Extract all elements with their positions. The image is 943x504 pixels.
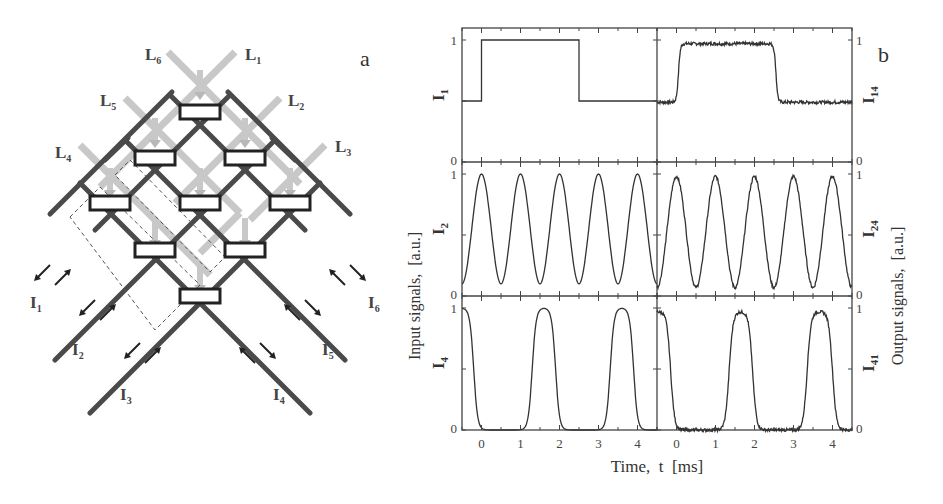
coupler-box bbox=[180, 196, 220, 210]
port-label-i2: I2 bbox=[72, 340, 84, 361]
x-tick-label: 3 bbox=[595, 436, 602, 451]
signal-plots: 1010101010100123401234 I1I14I2I24I4I41 T… bbox=[380, 0, 943, 504]
y-tick-label-left: 0 bbox=[451, 287, 458, 302]
x-axis-label: Time, t [ms] bbox=[611, 457, 703, 476]
x-tick-label: 0 bbox=[478, 436, 485, 451]
panel-y-labels: I1I14I2I24I4I41 bbox=[429, 86, 880, 372]
x-tick-label: 3 bbox=[790, 436, 797, 451]
signal-curve-i1 bbox=[462, 40, 657, 101]
panel-label-i4: I4 bbox=[429, 356, 450, 369]
port-label-i3: I3 bbox=[120, 385, 132, 406]
x-tick-label: 4 bbox=[634, 436, 641, 451]
x-tick-label: 1 bbox=[712, 436, 719, 451]
plot-frames bbox=[462, 28, 852, 430]
signal-curve-i14 bbox=[657, 42, 852, 103]
y-axis-label-left: Input signals, [a.u.] bbox=[406, 232, 424, 360]
light-label-l2: L2 bbox=[288, 91, 304, 112]
coupler-box bbox=[225, 243, 265, 257]
port-label-i6: I6 bbox=[368, 293, 380, 314]
light-label-l4: L4 bbox=[55, 143, 71, 164]
coupler-box bbox=[270, 196, 310, 210]
light-label-l3: L3 bbox=[335, 137, 351, 158]
y-tick-label-right: 0 bbox=[856, 153, 863, 168]
signal-curve-i4 bbox=[462, 308, 657, 430]
x-tick-label: 2 bbox=[556, 436, 563, 451]
y-tick-label-right: 1 bbox=[856, 33, 863, 48]
y-tick-label-right: 0 bbox=[856, 421, 863, 436]
y-tick-label-left: 0 bbox=[451, 421, 458, 436]
y-tick-label-right: 0 bbox=[856, 287, 863, 302]
signal-curve-i24 bbox=[657, 176, 852, 289]
panel-a-label: a bbox=[360, 46, 370, 71]
panel-label-i14: I14 bbox=[859, 86, 880, 104]
coupler-box bbox=[180, 289, 220, 303]
port-label-i5: I5 bbox=[322, 340, 334, 361]
x-tick-label: 2 bbox=[751, 436, 758, 451]
light-arrow-head bbox=[149, 140, 161, 148]
y-tick-label-left: 1 bbox=[451, 167, 458, 182]
light-label-l1: L1 bbox=[245, 45, 261, 66]
y-tick-label-left: 1 bbox=[451, 33, 458, 48]
y-tick-label-right: 1 bbox=[856, 301, 863, 316]
port-label-i1: I1 bbox=[30, 293, 42, 314]
y-axis-label-right: Output signals, [a.u.] bbox=[889, 227, 907, 366]
light-label-l6: L6 bbox=[145, 45, 161, 66]
panel-label-i41: I41 bbox=[859, 354, 880, 372]
coupler-box bbox=[225, 151, 265, 165]
y-tick-label-left: 0 bbox=[451, 153, 458, 168]
y-tick-label-left: 1 bbox=[451, 301, 458, 316]
waveguide-network-diagram: L1L2L3L4L5L6I1I2I3I4I5I6 a bbox=[0, 0, 380, 504]
y-tick-label-right: 1 bbox=[856, 167, 863, 182]
signal-curve-i41 bbox=[657, 311, 852, 432]
x-tick-label: 0 bbox=[673, 436, 680, 451]
light-label-l5: L5 bbox=[100, 91, 116, 112]
panel-label-i2: I2 bbox=[429, 222, 450, 235]
panel-label-i1: I1 bbox=[429, 89, 450, 101]
coupler-box bbox=[135, 151, 175, 165]
x-tick-label: 4 bbox=[829, 436, 836, 451]
panel-label-i24: I24 bbox=[859, 220, 880, 238]
x-tick-label: 1 bbox=[517, 436, 524, 451]
light-guides bbox=[80, 52, 325, 293]
diagram-labels: L1L2L3L4L5L6I1I2I3I4I5I6 bbox=[30, 45, 380, 406]
signal-curve-i2 bbox=[462, 174, 657, 284]
panel-b-label: b bbox=[878, 42, 889, 67]
coupler-box bbox=[180, 105, 220, 119]
coupler-box bbox=[135, 243, 175, 257]
coupler-box bbox=[90, 196, 130, 210]
light-arrow-head bbox=[239, 140, 251, 148]
